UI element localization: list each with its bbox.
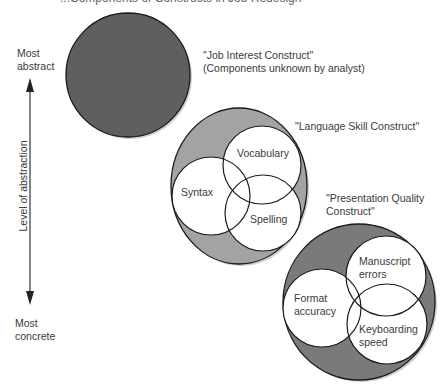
presentation-quality-title-block: "Presentation Quality Construct": [326, 192, 424, 218]
manuscript-line1: Manuscript: [359, 255, 410, 268]
language-skill-title: "Language Skill Construct": [295, 120, 419, 133]
keyboarding-line2: speed: [359, 336, 418, 349]
job-interest-title-block: "Job Interest Construct" (Components unk…: [203, 49, 365, 75]
most-concrete-label: Most concrete: [15, 317, 55, 343]
format-line1: Format: [294, 292, 336, 305]
vocabulary-label: Vocabulary: [237, 147, 289, 160]
most-concrete-line2: concrete: [15, 330, 55, 343]
most-abstract-line1: Most: [17, 47, 54, 60]
manuscript-line2: errors: [359, 268, 410, 281]
arrow-down-icon: [26, 291, 34, 305]
job-interest-subtitle: (Components unknown by analyst): [203, 62, 365, 75]
spelling-label: Spelling: [250, 213, 287, 226]
keyboarding-speed-label: Keyboarding speed: [359, 323, 418, 349]
arrow-up-icon: [26, 78, 34, 92]
format-accuracy-label: Format accuracy: [294, 292, 336, 318]
job-interest-construct: [66, 13, 192, 139]
syntax-label: Syntax: [181, 186, 213, 199]
job-interest-title: "Job Interest Construct": [203, 49, 365, 62]
keyboarding-line1: Keyboarding: [359, 323, 418, 336]
axis-title: Level of abstraction: [17, 131, 29, 241]
manuscript-errors-label: Manuscript errors: [359, 255, 410, 281]
most-concrete-line1: Most: [15, 317, 55, 330]
most-abstract-line2: abstract: [17, 60, 54, 73]
format-line2: accuracy: [294, 305, 336, 318]
presentation-title-line2: Construct": [326, 205, 424, 218]
presentation-title-line1: "Presentation Quality: [326, 192, 424, 205]
most-abstract-label: Most abstract: [17, 47, 54, 73]
